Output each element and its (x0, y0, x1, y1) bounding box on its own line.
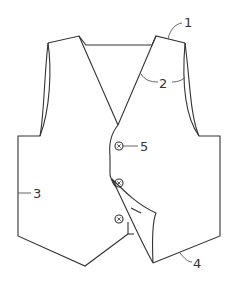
label-4: 4 (193, 256, 201, 271)
vest-outline (18, 36, 220, 266)
vest-diagram: 1 2 3 4 5 (0, 0, 232, 287)
label-2: 2 (159, 76, 167, 91)
label-5: 5 (140, 139, 148, 154)
leader-lines (18, 23, 192, 262)
button-bottom (115, 215, 123, 223)
button-top (115, 142, 123, 150)
label-3: 3 (33, 186, 41, 201)
label-1: 1 (184, 15, 192, 30)
